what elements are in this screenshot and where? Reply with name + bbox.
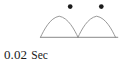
peak-marker-dot-2 bbox=[99, 4, 104, 9]
time-scale-unit: Sec bbox=[31, 49, 48, 61]
peak-marker-dot-1 bbox=[68, 4, 73, 9]
time-scale-value: 0.02 bbox=[4, 47, 27, 62]
time-scale-label: 0.02Sec bbox=[4, 45, 116, 64]
waveform-screenshot: 0.02Sec bbox=[0, 0, 121, 66]
waveform-plot bbox=[0, 0, 121, 44]
waveform-figure bbox=[0, 0, 121, 44]
pulse-hump-2 bbox=[78, 16, 116, 37]
pulse-hump-1 bbox=[41, 16, 79, 37]
